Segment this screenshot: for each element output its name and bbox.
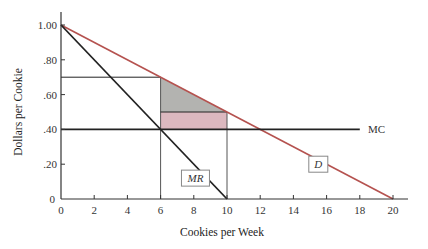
x-tick-label: 6 xyxy=(158,204,164,216)
x-axis-title: Cookies per Week xyxy=(180,226,264,239)
x-ticks: 02468101214161820 xyxy=(58,195,399,216)
x-tick-label: 0 xyxy=(58,204,64,216)
curve-label-d: D xyxy=(313,158,322,170)
x-tick-label: 20 xyxy=(388,204,400,216)
x-tick-label: 12 xyxy=(255,204,266,216)
x-tick-label: 8 xyxy=(191,204,197,216)
y-tick-label: .20 xyxy=(43,158,57,170)
curve-label-mc: MC xyxy=(368,123,385,135)
y-axis-title: Dollars per Cookie xyxy=(12,68,25,156)
chart: 02468101214161820 0.20.40.60.801.00 MRDM… xyxy=(0,0,428,249)
x-tick-label: 16 xyxy=(321,204,333,216)
y-tick-label: .60 xyxy=(43,89,57,101)
rectangle-region xyxy=(161,112,227,129)
shaded-regions xyxy=(161,77,227,129)
x-tick-label: 18 xyxy=(354,204,366,216)
x-tick-label: 2 xyxy=(91,204,97,216)
y-tick-label: .80 xyxy=(43,54,57,66)
annotations: MRDMC xyxy=(181,123,385,186)
y-tick-label: 0 xyxy=(50,193,56,205)
x-tick-label: 4 xyxy=(125,204,131,216)
x-tick-label: 14 xyxy=(288,204,300,216)
x-tick-label: 10 xyxy=(222,204,234,216)
y-tick-label: .40 xyxy=(43,123,57,135)
y-tick-label: 1.00 xyxy=(38,19,58,31)
axes xyxy=(61,12,408,199)
curve-label-mr: MR xyxy=(187,172,204,184)
